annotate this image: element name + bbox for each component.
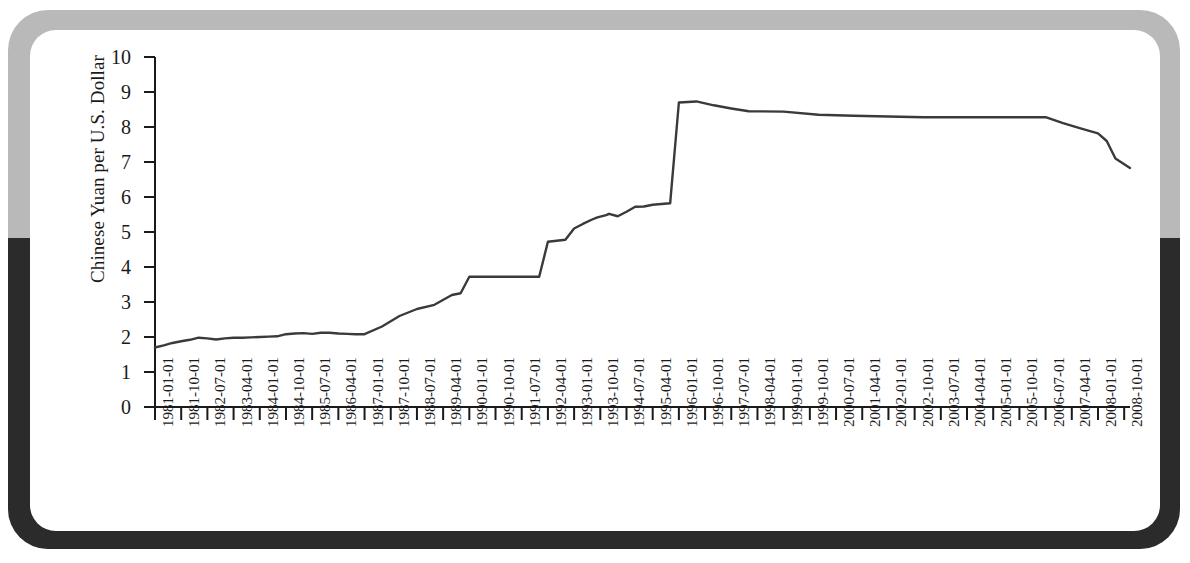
x-tick-label: 2002-10-01 — [921, 357, 936, 427]
x-tick-label: 1995-04-01 — [659, 357, 674, 427]
x-tick-label: 2004-04-01 — [973, 357, 988, 427]
x-tick-label: 1990-01-01 — [475, 357, 490, 427]
x-tick-label: 1996-10-01 — [711, 357, 726, 427]
x-tick-label: 1984-10-01 — [292, 357, 307, 427]
x-tick-label: 2002-01-01 — [894, 357, 909, 427]
x-tick-label: 1999-01-01 — [790, 357, 805, 427]
x-tick-label: 2008-01-01 — [1104, 357, 1119, 427]
x-tick-label: 1991-07-01 — [528, 357, 543, 427]
data-series-line — [155, 101, 1130, 347]
x-tick-label: 2007-04-01 — [1078, 357, 1093, 427]
x-tick-label: 1992-04-01 — [554, 357, 569, 427]
x-tick-label: 1981-01-01 — [161, 357, 176, 427]
x-tick-label: 1987-10-01 — [397, 357, 412, 427]
x-tick-label: 2005-10-01 — [1025, 357, 1040, 427]
x-tick-label: 1994-07-01 — [632, 357, 647, 427]
chart-card: Chinese Yuan per U.S. Dollar 01234567891… — [30, 30, 1160, 531]
x-tick-label: 1990-10-01 — [502, 357, 517, 427]
x-tick-label: 2003-07-01 — [947, 357, 962, 427]
x-tick-label: 2008-10-01 — [1130, 357, 1145, 427]
x-tick-label: 2000-07-01 — [842, 357, 857, 427]
line-chart: Chinese Yuan per U.S. Dollar 01234567891… — [30, 30, 1160, 531]
x-tick-label: 1986-04-01 — [344, 357, 359, 427]
figure-page: Chinese Yuan per U.S. Dollar 01234567891… — [0, 0, 1190, 563]
x-tick-label: 1981-10-01 — [187, 357, 202, 427]
x-tick-label: 1984-01-01 — [266, 357, 281, 427]
x-tick-label: 2006-07-01 — [1052, 357, 1067, 427]
x-tick-label: 1982-07-01 — [213, 357, 228, 427]
plot-area — [30, 30, 1160, 531]
x-tick-label: 2005-01-01 — [999, 357, 1014, 427]
x-tick-label: 1999-10-01 — [816, 357, 831, 427]
x-tick-label: 1996-01-01 — [685, 357, 700, 427]
x-tick-label: 1983-04-01 — [240, 357, 255, 427]
x-tick-label: 1993-01-01 — [580, 357, 595, 427]
x-tick-label: 1988-07-01 — [423, 357, 438, 427]
x-tick-label: 1997-07-01 — [737, 357, 752, 427]
x-tick-label: 1985-07-01 — [318, 357, 333, 427]
x-tick-label: 1998-04-01 — [763, 357, 778, 427]
x-tick-label: 1993-10-01 — [606, 357, 621, 427]
x-tick-label: 2001-04-01 — [868, 357, 883, 427]
x-tick-label: 1987-01-01 — [371, 357, 386, 427]
x-tick-label: 1989-04-01 — [449, 357, 464, 427]
